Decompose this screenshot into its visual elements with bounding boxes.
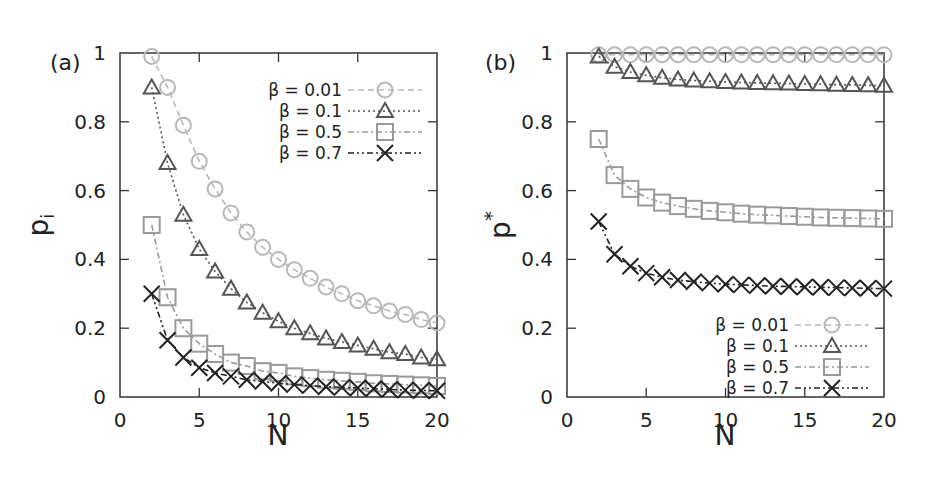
legend-label: β = 0.7 bbox=[279, 143, 342, 163]
data-point-marker bbox=[797, 76, 813, 90]
legend-marker bbox=[824, 338, 840, 352]
y-tick-label: 0.2 bbox=[521, 316, 553, 340]
data-point-marker bbox=[414, 312, 429, 327]
data-point-marker bbox=[144, 79, 160, 93]
data-point-marker bbox=[207, 365, 223, 381]
data-point-marker bbox=[191, 241, 207, 255]
panel-b-ylabel-main: p bbox=[484, 221, 517, 239]
y-tick-label: 0.6 bbox=[74, 179, 106, 203]
x-tick-label: 20 bbox=[871, 408, 896, 432]
data-point-marker bbox=[654, 269, 670, 285]
panel-b-series bbox=[591, 47, 892, 296]
panel-b-label: (b) bbox=[485, 50, 516, 75]
data-point-marker bbox=[318, 331, 334, 345]
y-tick-label: 1 bbox=[540, 41, 553, 65]
legend-label: β = 0.5 bbox=[279, 122, 342, 142]
data-point-marker bbox=[670, 71, 686, 85]
y-tick-label: 0.4 bbox=[74, 247, 106, 271]
legend-label: β = 0.1 bbox=[279, 101, 342, 121]
data-point-marker bbox=[303, 271, 318, 286]
panel-a-label: (a) bbox=[50, 50, 81, 75]
data-point-marker bbox=[670, 198, 686, 214]
series-3 bbox=[591, 131, 892, 227]
figure: (a) 0510152000.20.40.60.81 β = 0.01β = 0… bbox=[0, 0, 930, 492]
data-point-marker bbox=[638, 265, 654, 281]
data-point-marker bbox=[191, 360, 207, 376]
data-point-marker bbox=[381, 344, 397, 358]
y-tick-label: 0.4 bbox=[521, 247, 553, 271]
data-point-marker bbox=[160, 332, 176, 348]
data-point-marker bbox=[702, 73, 718, 87]
legend-label: β = 0.01 bbox=[268, 80, 342, 100]
data-point-marker bbox=[844, 77, 860, 91]
data-point-marker bbox=[175, 349, 191, 365]
y-tick-label: 0 bbox=[93, 385, 106, 409]
y-tick-label: 0.6 bbox=[521, 179, 553, 203]
data-point-marker bbox=[828, 77, 844, 91]
legend-label: β = 0.1 bbox=[726, 336, 789, 356]
x-tick-label: 5 bbox=[193, 408, 206, 432]
data-point-marker bbox=[413, 349, 429, 363]
data-point-marker bbox=[286, 320, 302, 334]
panel-b-ylabel-sup: * bbox=[479, 211, 503, 221]
data-point-marker bbox=[654, 195, 670, 211]
series-1 bbox=[591, 47, 891, 62]
data-point-marker bbox=[334, 334, 350, 348]
y-tick-label: 0.8 bbox=[521, 110, 553, 134]
y-tick-label: 0.8 bbox=[74, 110, 106, 134]
data-point-marker bbox=[319, 279, 334, 294]
panel-a-ylabel-sub: i bbox=[37, 214, 58, 219]
panel-a-ticks: 0510152000.20.40.60.81 bbox=[74, 41, 450, 432]
data-point-marker bbox=[638, 189, 654, 205]
svg-text:p*: p* bbox=[479, 211, 517, 239]
x-tick-label: 0 bbox=[114, 408, 127, 432]
data-point-marker bbox=[591, 214, 607, 230]
x-tick-label: 20 bbox=[424, 408, 449, 432]
data-point-marker bbox=[813, 76, 829, 90]
legend-marker bbox=[377, 103, 393, 117]
series-3 bbox=[144, 217, 445, 394]
y-tick-label: 0.2 bbox=[74, 316, 106, 340]
data-point-marker bbox=[686, 73, 702, 87]
data-point-marker bbox=[144, 286, 160, 302]
panel-b-xlabel: N bbox=[715, 419, 736, 452]
panel-b: (b) 0510152000.20.40.60.81 β = 0.01β = 0… bbox=[479, 41, 897, 452]
series-line bbox=[599, 139, 884, 219]
data-point-marker bbox=[654, 70, 670, 84]
legend-label: β = 0.01 bbox=[715, 315, 789, 335]
svg-text:pi: pi bbox=[22, 214, 58, 237]
x-tick-label: 0 bbox=[561, 408, 574, 432]
legend-label: β = 0.5 bbox=[726, 357, 789, 377]
data-point-marker bbox=[749, 75, 765, 89]
panel-a-legend: β = 0.01β = 0.1β = 0.5β = 0.7 bbox=[268, 80, 422, 163]
panel-b-ylabel: p* bbox=[479, 211, 517, 239]
y-tick-label: 1 bbox=[93, 41, 106, 65]
legend-label: β = 0.7 bbox=[726, 378, 789, 398]
data-point-marker bbox=[765, 75, 781, 89]
data-point-marker bbox=[622, 258, 638, 274]
x-tick-label: 15 bbox=[792, 408, 817, 432]
panel-b-legend: β = 0.01β = 0.1β = 0.5β = 0.7 bbox=[715, 315, 869, 398]
data-point-marker bbox=[208, 181, 223, 196]
data-point-marker bbox=[397, 346, 413, 360]
panel-a: (a) 0510152000.20.40.60.81 β = 0.01β = 0… bbox=[22, 41, 450, 452]
data-point-marker bbox=[860, 77, 876, 91]
x-tick-label: 15 bbox=[345, 408, 370, 432]
data-point-marker bbox=[781, 76, 797, 90]
data-point-marker bbox=[670, 272, 686, 288]
data-point-marker bbox=[607, 246, 623, 262]
data-point-marker bbox=[622, 64, 638, 78]
data-point-marker bbox=[223, 355, 239, 371]
y-tick-label: 0 bbox=[540, 385, 553, 409]
data-point-marker bbox=[366, 298, 381, 313]
data-point-marker bbox=[271, 313, 287, 327]
series-4 bbox=[144, 286, 445, 399]
x-tick-label: 5 bbox=[640, 408, 653, 432]
panel-a-xlabel: N bbox=[268, 419, 289, 452]
panel-a-ylabel-main: p bbox=[22, 219, 55, 237]
panel-a-ylabel: pi bbox=[22, 214, 58, 237]
